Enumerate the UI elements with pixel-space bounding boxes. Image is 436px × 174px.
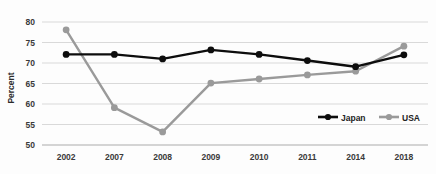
data-point [256,51,263,58]
x-tick-label: 2018 [394,152,413,162]
y-tick-label: 65 [26,79,36,89]
y-tick-label: 70 [26,58,36,68]
line-chart: 50556065707580 Percent 20022007200820092… [0,0,436,174]
data-point [304,71,311,78]
data-point [352,63,359,70]
x-tick-label: 2009 [201,152,220,162]
data-point [111,51,118,58]
chart-canvas: 50556065707580 Percent 20022007200820092… [0,0,436,174]
data-point [111,104,118,111]
legend-marker-usa [386,114,392,120]
data-point [63,26,70,33]
y-tick-label: 80 [26,17,36,27]
data-point [304,57,311,64]
x-tick-label: 2002 [57,152,76,162]
data-point [256,76,263,83]
data-point [159,56,166,63]
x-tick-label: 2008 [153,152,172,162]
x-tick-label: 2011 [298,152,317,162]
data-point [159,128,166,135]
data-point [207,80,214,87]
y-axis-title: Percent [6,72,16,103]
x-tick-label: 2014 [346,152,365,162]
data-point [207,46,214,53]
x-tick-label: 2007 [105,152,124,162]
legend-label-japan: Japan [341,113,366,123]
x-tick-label: 2010 [250,152,269,162]
chart-background [0,0,436,174]
y-tick-label: 55 [26,120,36,130]
y-tick-label: 50 [26,140,36,150]
legend-label-usa: USA [402,113,420,123]
data-point [400,43,407,50]
y-tick-label: 60 [26,99,36,109]
y-tick-label: 75 [26,38,36,48]
data-point [63,51,70,58]
legend-marker-japan [325,114,331,120]
data-point [400,51,407,58]
